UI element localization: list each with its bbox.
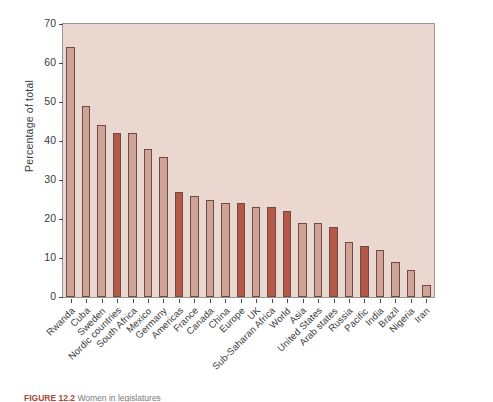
bar-world [283, 211, 292, 297]
bar-mexico [144, 149, 153, 297]
x-axis-tick [117, 299, 118, 303]
y-tick-label: 50 [44, 95, 56, 107]
plot-area: 010203040506070 [62, 23, 435, 298]
y-tick-label: 40 [44, 134, 56, 146]
bar-cuba [82, 106, 91, 297]
x-axis-tick [102, 299, 103, 303]
x-axis-tick [133, 299, 134, 303]
bar-sub-saharan-africa [267, 207, 276, 297]
x-axis-tick [71, 299, 72, 303]
bar-russia [345, 242, 354, 297]
bar-uk [252, 207, 261, 297]
x-axis-tick [179, 299, 180, 303]
x-axis-tick [318, 299, 319, 303]
y-tick-mark [59, 219, 63, 220]
bar-rwanda [66, 47, 75, 297]
bar-europe [237, 203, 246, 297]
y-tick-label: 30 [44, 173, 56, 185]
bar-nordic-countries [113, 133, 122, 297]
bar-americas [175, 192, 184, 297]
y-tick-mark [59, 63, 63, 64]
bar-china [221, 203, 230, 297]
bar-india [376, 250, 385, 297]
figure-caption: FIGURE 12.2 Women in legislatures [24, 393, 161, 402]
x-axis-tick [364, 299, 365, 303]
x-axis-tick [194, 299, 195, 303]
bar-arab-states [329, 227, 338, 297]
bar-iran [422, 285, 431, 297]
x-axis-tick [86, 299, 87, 303]
y-tick-label: 60 [44, 56, 56, 68]
x-axis-tick [225, 299, 226, 303]
x-axis-tick [287, 299, 288, 303]
x-axis-tick [411, 299, 412, 303]
bar-united-states [314, 223, 323, 297]
x-axis-tick [256, 299, 257, 303]
x-axis-tick [272, 299, 273, 303]
y-tick-mark [59, 141, 63, 142]
y-tick-mark [59, 297, 63, 298]
y-tick-mark [59, 180, 63, 181]
bar-pacific [360, 246, 369, 297]
caption-title: Women in legislatures [77, 393, 160, 402]
x-axis-tick [163, 299, 164, 303]
bar-sweden [97, 125, 106, 297]
x-axis-label-iran: Iran [412, 305, 432, 325]
y-tick-label: 70 [44, 17, 56, 29]
bar-brazil [391, 262, 400, 297]
x-axis-tick [395, 299, 396, 303]
y-tick-label: 10 [44, 251, 56, 263]
bar-south-africa [128, 133, 137, 297]
x-axis-tick [426, 299, 427, 303]
y-tick-mark [59, 24, 63, 25]
y-tick-label: 20 [44, 212, 56, 224]
x-axis-tick [148, 299, 149, 303]
plot-inner: 010203040506070 [63, 24, 434, 297]
y-tick-label: 0 [50, 290, 56, 302]
y-tick-mark [59, 102, 63, 103]
x-axis-tick [210, 299, 211, 303]
bar-asia [298, 223, 307, 297]
y-tick-mark [59, 258, 63, 259]
y-axis-title: Percentage of total [23, 31, 35, 221]
x-axis-tick [303, 299, 304, 303]
bar-france [190, 196, 199, 297]
caption-figure-number: FIGURE 12.2 [24, 393, 75, 402]
bar-canada [206, 200, 215, 298]
x-axis-tick [380, 299, 381, 303]
x-axis-tick [241, 299, 242, 303]
x-axis-tick [349, 299, 350, 303]
bar-germany [159, 157, 168, 297]
x-axis-tick [334, 299, 335, 303]
bar-nigeria [407, 270, 416, 297]
